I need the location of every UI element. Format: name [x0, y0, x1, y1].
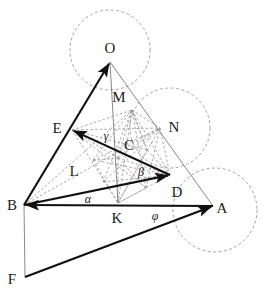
dash-E-M [72, 110, 132, 130]
angle-label-beta: β [138, 166, 144, 178]
arrow-B-O [24, 64, 109, 205]
point-label-M: M [112, 90, 125, 105]
line-B-F [24, 205, 25, 277]
point-label-E: E [52, 121, 61, 136]
arrow-A-B [26, 205, 213, 206]
point-label-B: B [7, 198, 17, 213]
arrow-B-D [24, 175, 168, 205]
point-label-D: D [172, 185, 183, 200]
angle-label-alpha: α [85, 193, 91, 205]
point-label-O: O [105, 41, 116, 56]
geometry-figure: OMENCLDBAKFγβαφ [0, 0, 263, 296]
point-label-N: N [169, 120, 180, 135]
point-label-F: F [8, 272, 16, 287]
point-label-C: C [124, 138, 134, 153]
point-label-L: L [69, 164, 78, 179]
angle-label-phi: φ [152, 210, 159, 222]
circle-bottom-right [173, 168, 257, 252]
point-label-A: A [217, 201, 228, 216]
dash-E-N [72, 128, 160, 130]
angle-label-gamma: γ [104, 130, 109, 142]
line-O-K [110, 62, 118, 203]
point-label-K: K [112, 211, 123, 226]
dashed-circles-group [70, 10, 257, 252]
